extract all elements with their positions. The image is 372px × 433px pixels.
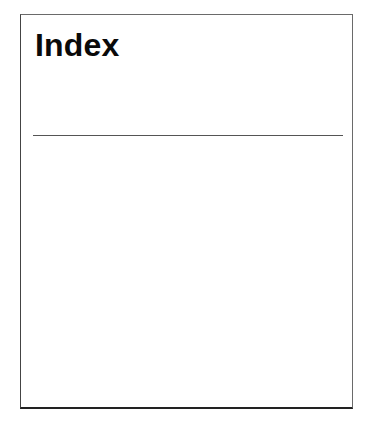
title-divider xyxy=(33,135,343,136)
page-title: Index xyxy=(35,26,120,64)
page-frame: Index xyxy=(20,14,353,409)
